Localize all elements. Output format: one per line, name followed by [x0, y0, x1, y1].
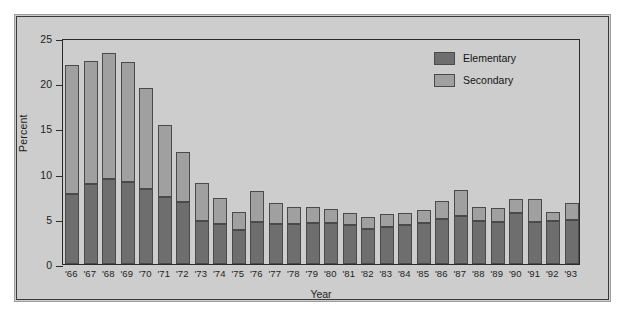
bar-segment-secondary: [287, 207, 301, 224]
y-axis-tick: [56, 130, 63, 131]
bar-segment-secondary: [565, 203, 579, 219]
bar-segment-secondary: [250, 191, 264, 222]
x-axis-tick-label: '88: [472, 268, 484, 279]
bar-y67[interactable]: [84, 61, 98, 264]
x-axis-tick-label: '69: [121, 268, 133, 279]
bar-y72[interactable]: [176, 152, 190, 264]
bar-segment-secondary: [435, 201, 449, 219]
bar-segment-elementary: [195, 221, 209, 264]
bar-segment-elementary: [250, 222, 264, 264]
x-axis-tick-label: '68: [102, 268, 114, 279]
bar-y88[interactable]: [472, 207, 486, 264]
legend-item-secondary[interactable]: Secondary: [434, 70, 566, 90]
bar-segment-elementary: [454, 216, 468, 264]
x-axis-tick-label: '66: [65, 268, 77, 279]
x-axis-tick-label: '74: [213, 268, 225, 279]
legend-label-secondary: Secondary: [463, 74, 513, 86]
legend-swatch-elementary-icon: [434, 52, 455, 65]
bar-y71[interactable]: [158, 125, 172, 264]
bar-segment-elementary: [343, 225, 357, 264]
bar-segment-elementary: [509, 213, 523, 264]
bar-segment-secondary: [324, 209, 338, 223]
bar-y68[interactable]: [102, 53, 116, 264]
x-axis-tick-label: '84: [398, 268, 410, 279]
x-axis-tick-label: '77: [269, 268, 281, 279]
bar-y78[interactable]: [287, 207, 301, 264]
x-axis-tick-label: '90: [509, 268, 521, 279]
bar-segment-secondary: [472, 207, 486, 221]
bar-segment-secondary: [528, 199, 542, 222]
bar-y73[interactable]: [195, 183, 209, 264]
bar-segment-elementary: [139, 189, 153, 264]
bar-y87[interactable]: [454, 190, 468, 264]
y-axis-title: Percent: [17, 114, 29, 152]
bar-segment-secondary: [361, 217, 375, 229]
y-axis-tick-label: 20: [40, 78, 52, 90]
bar-segment-elementary: [121, 182, 135, 264]
bar-y69[interactable]: [121, 62, 135, 264]
bar-y79[interactable]: [306, 207, 320, 264]
bar-segment-elementary: [398, 225, 412, 264]
bar-segment-elementary: [269, 224, 283, 264]
x-axis-tick-label: '72: [176, 268, 188, 279]
bar-y85[interactable]: [417, 210, 431, 264]
x-axis-tick-label: '86: [435, 268, 447, 279]
chart-legend: Elementary Secondary: [434, 48, 566, 92]
bar-y76[interactable]: [250, 191, 264, 264]
bar-y91[interactable]: [528, 199, 542, 264]
bar-segment-secondary: [546, 212, 560, 220]
bar-y92[interactable]: [546, 212, 560, 264]
y-axis-tick: [56, 40, 63, 41]
bar-y70[interactable]: [139, 88, 153, 264]
bar-y74[interactable]: [213, 198, 227, 264]
bar-y66[interactable]: [65, 65, 79, 264]
bar-segment-elementary: [565, 220, 579, 264]
bar-segment-elementary: [158, 197, 172, 264]
x-axis-tick-label: '92: [546, 268, 558, 279]
bar-y86[interactable]: [435, 201, 449, 264]
x-axis-tick-label: '81: [343, 268, 355, 279]
bar-segment-elementary: [380, 227, 394, 264]
bar-segment-secondary: [65, 65, 79, 194]
chart-figure: Percent 0510152025 '66'67'68'69'70'71'72…: [0, 0, 627, 328]
y-axis-tick: [56, 221, 63, 222]
bar-y89[interactable]: [491, 208, 505, 264]
x-axis-tick-label: '85: [417, 268, 429, 279]
legend-item-elementary[interactable]: Elementary: [434, 48, 566, 68]
bar-y84[interactable]: [398, 213, 412, 264]
bar-segment-elementary: [65, 194, 79, 264]
bar-segment-elementary: [232, 230, 246, 264]
bar-segment-secondary: [84, 61, 98, 185]
bar-y75[interactable]: [232, 212, 246, 264]
x-axis-tick-label: '93: [565, 268, 577, 279]
bar-y90[interactable]: [509, 199, 523, 264]
y-axis-tick-label: 15: [40, 123, 52, 135]
bar-segment-elementary: [306, 223, 320, 264]
bar-segment-elementary: [546, 221, 560, 264]
bar-segment-secondary: [380, 214, 394, 227]
bar-y93[interactable]: [565, 203, 579, 264]
bar-segment-elementary: [102, 179, 116, 264]
x-axis-tick-label: '82: [361, 268, 373, 279]
x-axis-tick-label: '73: [195, 268, 207, 279]
bar-segment-elementary: [84, 184, 98, 264]
bar-segment-secondary: [417, 210, 431, 224]
bar-y77[interactable]: [269, 203, 283, 264]
y-axis-tick: [56, 176, 63, 177]
bar-segment-elementary: [528, 222, 542, 264]
x-axis-tick-label: '80: [324, 268, 336, 279]
x-axis-tick-label: '89: [491, 268, 503, 279]
bar-segment-secondary: [213, 198, 227, 224]
y-axis-tick-label: 10: [40, 169, 52, 181]
x-axis-tick-label: '83: [380, 268, 392, 279]
bar-y81[interactable]: [343, 212, 357, 264]
bar-y80[interactable]: [324, 209, 338, 264]
bar-segment-secondary: [121, 62, 135, 182]
legend-swatch-secondary-icon: [434, 74, 455, 87]
bar-y83[interactable]: [380, 214, 394, 264]
bar-y82[interactable]: [361, 217, 375, 264]
legend-label-elementary: Elementary: [463, 52, 516, 64]
x-axis-tick-label: '70: [139, 268, 151, 279]
bar-segment-secondary: [398, 213, 412, 225]
bar-segment-secondary: [491, 208, 505, 222]
